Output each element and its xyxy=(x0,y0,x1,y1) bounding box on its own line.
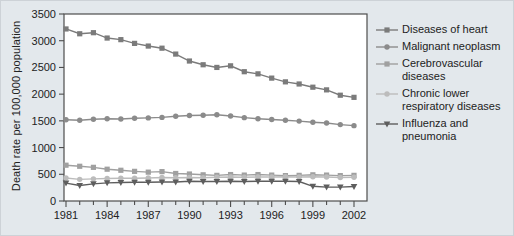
square-marker-icon xyxy=(375,24,399,36)
data-point xyxy=(146,170,151,175)
legend-marker xyxy=(384,91,389,96)
data-point xyxy=(104,116,109,121)
data-point xyxy=(91,176,96,181)
legend-marker xyxy=(384,61,389,66)
data-point xyxy=(338,122,343,127)
legend-item-chronic-lower-respiratory-diseases: Chronic lower respiratory diseases xyxy=(375,87,513,113)
data-point xyxy=(77,177,82,182)
data-point xyxy=(146,115,151,120)
data-point xyxy=(324,87,329,92)
data-point xyxy=(228,63,233,68)
data-point xyxy=(63,175,68,180)
data-point xyxy=(242,115,247,120)
x-tick-label: 1996 xyxy=(259,209,283,221)
data-point xyxy=(77,31,82,36)
data-point xyxy=(63,26,68,31)
data-point xyxy=(159,169,164,174)
y-tick-label: 500 xyxy=(38,168,56,180)
legend-marker xyxy=(384,27,389,32)
data-point xyxy=(310,85,315,90)
x-tick-label: 1993 xyxy=(218,209,242,221)
data-point xyxy=(310,119,315,124)
data-point xyxy=(159,115,164,120)
legend-marker xyxy=(384,44,389,49)
data-point xyxy=(201,62,206,67)
y-tick-label: 1500 xyxy=(32,115,56,127)
data-point xyxy=(297,81,302,86)
data-point xyxy=(105,35,110,40)
y-tick-label: 3500 xyxy=(32,8,56,20)
y-tick-label: 1000 xyxy=(32,142,56,154)
data-point xyxy=(269,117,274,122)
data-point xyxy=(159,175,164,180)
legend-label-cerebrovascular-diseases: Cerebrovascular diseases xyxy=(399,57,513,83)
data-point xyxy=(105,167,110,172)
legend-label-chronic-lower-respiratory-diseases: Chronic lower respiratory diseases xyxy=(399,87,513,113)
data-point xyxy=(214,65,219,70)
data-point xyxy=(351,175,356,180)
circle-marker-icon xyxy=(375,88,399,100)
data-point xyxy=(91,117,96,122)
y-tick-label: 3000 xyxy=(32,35,56,47)
data-point xyxy=(324,174,329,179)
legend-item-influenza-and-pneumonia: Influenza and pneumonia xyxy=(375,117,513,143)
data-point xyxy=(296,118,301,123)
data-point xyxy=(146,43,151,48)
y-tick-label: 0 xyxy=(50,195,56,207)
x-tick-label: 1981 xyxy=(54,209,78,221)
data-point xyxy=(200,113,205,118)
data-point xyxy=(132,169,137,174)
data-point xyxy=(159,46,164,51)
data-point xyxy=(242,69,247,74)
data-point xyxy=(77,164,82,169)
legend-label-influenza-and-pneumonia: Influenza and pneumonia xyxy=(399,117,513,143)
data-point xyxy=(173,114,178,119)
y-tick-label: 2500 xyxy=(32,61,56,73)
data-point xyxy=(77,118,82,123)
data-point xyxy=(187,113,192,118)
legend-item-diseases-of-heart: Diseases of heart xyxy=(375,23,513,36)
legend: Diseases of heartMalignant neoplasmCereb… xyxy=(375,23,513,147)
legend-item-cerebrovascular-diseases: Cerebrovascular diseases xyxy=(375,57,513,83)
data-point xyxy=(269,76,274,81)
data-point xyxy=(132,115,137,120)
x-tick-label: 2002 xyxy=(342,209,366,221)
data-point xyxy=(118,37,123,42)
y-tick-label: 2000 xyxy=(32,88,56,100)
data-point xyxy=(296,174,301,179)
data-point xyxy=(283,118,288,123)
x-tick-label: 1987 xyxy=(136,209,160,221)
triangle-down-marker-icon xyxy=(375,118,399,130)
data-point xyxy=(91,165,96,170)
legend-item-malignant-neoplasm: Malignant neoplasm xyxy=(375,40,513,53)
data-point xyxy=(228,113,233,118)
data-point xyxy=(132,41,137,46)
data-point xyxy=(255,71,260,76)
data-point xyxy=(338,93,343,98)
data-point xyxy=(338,175,343,180)
figure-panel: 0500100015002000250030003500198119841987… xyxy=(0,0,514,236)
data-point xyxy=(118,116,123,121)
data-point xyxy=(63,117,68,122)
data-point xyxy=(173,51,178,56)
x-tick-label: 1999 xyxy=(301,209,325,221)
y-axis-title: Death rate per 100,000 population xyxy=(10,10,22,202)
legend-label-malignant-neoplasm: Malignant neoplasm xyxy=(399,40,500,53)
data-point xyxy=(324,120,329,125)
data-point xyxy=(214,112,219,117)
data-point xyxy=(283,79,288,84)
data-point xyxy=(187,58,192,63)
circle-marker-icon xyxy=(375,41,399,53)
data-point xyxy=(351,123,356,128)
square-marker-icon xyxy=(375,58,399,70)
x-tick-label: 1984 xyxy=(95,209,119,221)
data-point xyxy=(283,174,288,179)
data-point xyxy=(351,95,356,100)
legend-label-diseases-of-heart: Diseases of heart xyxy=(399,23,488,36)
data-point xyxy=(91,30,96,35)
data-point xyxy=(63,163,68,168)
data-point xyxy=(310,174,315,179)
data-point xyxy=(255,116,260,121)
data-point xyxy=(118,168,123,173)
x-tick-label: 1990 xyxy=(177,209,201,221)
